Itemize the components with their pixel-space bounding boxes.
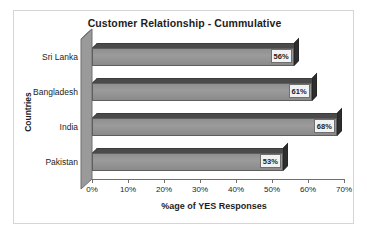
- x-tick-label: 60%: [300, 185, 316, 194]
- bar-data-label: 68%: [314, 119, 335, 133]
- category-label: Pakistan: [45, 157, 78, 167]
- bar-top-face: [92, 148, 288, 153]
- x-tick-label: 10%: [120, 185, 136, 194]
- bar-top-face: [92, 43, 299, 48]
- chart-container: Customer Relationship - Cummulative Coun…: [13, 10, 354, 224]
- bar-top-face: [92, 78, 317, 83]
- x-axis-line: [92, 179, 344, 180]
- x-tick-mark: [236, 179, 237, 183]
- x-tick-label: 30%: [192, 185, 208, 194]
- x-tick-label: 50%: [264, 185, 280, 194]
- x-tick-mark: [200, 179, 201, 183]
- bar-front-face: [92, 83, 312, 101]
- x-tick-mark: [128, 179, 129, 183]
- x-tick-label: 70%: [336, 185, 352, 194]
- bar-data-label: 61%: [289, 84, 310, 98]
- bar-front-face: [92, 48, 294, 66]
- x-tick-mark: [164, 179, 165, 183]
- x-tick-label: 40%: [228, 185, 244, 194]
- bar-end-cap: [312, 72, 317, 100]
- x-tick-label: 20%: [156, 185, 172, 194]
- bar-end-cap: [294, 37, 299, 65]
- bar: 56%: [92, 48, 294, 66]
- bar-data-label: 56%: [271, 49, 292, 63]
- x-tick-label: 0%: [86, 185, 98, 194]
- chart-title: Customer Relationship - Cummulative: [14, 17, 355, 29]
- x-axis-title: %age of YES Responses: [84, 201, 344, 211]
- bar-front-face: [92, 153, 283, 171]
- category-label: Sri Lanka: [42, 52, 78, 62]
- x-tick-mark: [272, 179, 273, 183]
- bar-front-face: [92, 118, 337, 136]
- bar: 68%: [92, 118, 337, 136]
- x-tick-mark: [92, 179, 93, 183]
- x-tick-mark: [344, 179, 345, 183]
- bar: 53%: [92, 153, 283, 171]
- x-tick-mark: [308, 179, 309, 183]
- category-label: India: [60, 122, 78, 132]
- category-label: Bangladesh: [33, 87, 78, 97]
- bar-top-face: [92, 113, 342, 118]
- plot-area: 56%61%68%53% 0%10%20%30%40%50%60%70%: [92, 39, 344, 179]
- bar: 61%: [92, 83, 312, 101]
- bar-end-cap: [283, 142, 288, 170]
- category-axis-labels: Sri LankaBangladeshIndiaPakistan: [32, 39, 78, 179]
- bar-end-cap: [337, 107, 342, 135]
- bar-data-label: 53%: [260, 154, 281, 168]
